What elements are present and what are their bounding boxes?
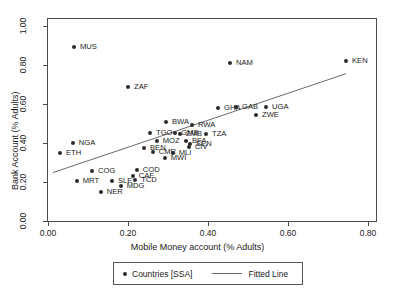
data-point bbox=[58, 151, 62, 155]
y-tick-mark bbox=[43, 221, 47, 222]
data-point-label: CIV bbox=[195, 143, 208, 151]
legend-marker-dot-icon bbox=[123, 272, 127, 276]
x-tick-mark bbox=[128, 222, 129, 226]
data-point bbox=[234, 105, 238, 109]
data-point bbox=[254, 113, 258, 117]
x-axis-title: Mobile Money account (% Adults) bbox=[0, 242, 395, 252]
x-tick-mark bbox=[48, 222, 49, 226]
x-tick-mark bbox=[368, 222, 369, 226]
legend-label-fitted-line: Fitted Line bbox=[248, 269, 288, 279]
data-point bbox=[75, 179, 79, 183]
legend-line-icon bbox=[212, 273, 242, 274]
x-tick-mark bbox=[288, 222, 289, 226]
y-tick-label: 1.00 bbox=[18, 11, 28, 41]
data-point-label: KEN bbox=[352, 57, 368, 65]
data-point-label: MUS bbox=[80, 43, 97, 51]
data-point bbox=[142, 146, 146, 150]
x-tick-label: 0.60 bbox=[268, 228, 308, 238]
data-point bbox=[264, 105, 268, 109]
x-tick-label: 0.80 bbox=[348, 228, 388, 238]
data-point bbox=[216, 106, 220, 110]
x-tick-label: 0.20 bbox=[108, 228, 148, 238]
y-tick-label: 0.80 bbox=[18, 50, 28, 80]
data-point bbox=[178, 132, 182, 136]
data-point bbox=[71, 141, 75, 145]
data-point-label: BWA bbox=[172, 118, 189, 126]
data-point-label: ETH bbox=[66, 149, 81, 157]
data-point-label: NGA bbox=[79, 139, 95, 147]
y-tick-mark bbox=[43, 26, 47, 27]
x-tick-mark bbox=[208, 222, 209, 226]
y-tick-mark bbox=[43, 65, 47, 66]
data-point-label: GHA bbox=[224, 104, 240, 112]
data-point-label: TZA bbox=[212, 130, 226, 138]
data-point-label: ZAF bbox=[134, 83, 148, 91]
data-point-label: RWA bbox=[198, 121, 215, 129]
x-tick-label: 0.40 bbox=[188, 228, 228, 238]
y-tick-mark bbox=[43, 104, 47, 105]
data-point bbox=[163, 156, 167, 160]
data-point-label: NER bbox=[107, 188, 123, 196]
data-point-label: COG bbox=[98, 167, 115, 175]
y-tick-mark bbox=[43, 143, 47, 144]
data-point-label: GAB bbox=[242, 103, 258, 111]
legend-entry-countries: Countries [SSA] bbox=[114, 269, 192, 279]
data-point bbox=[110, 179, 114, 183]
data-point-label: MRT bbox=[83, 177, 99, 185]
chart-legend: Countries [SSA] Fitted Line bbox=[113, 262, 303, 285]
legend-label-countries: Countries [SSA] bbox=[132, 269, 192, 279]
x-tick-label: 0.00 bbox=[28, 228, 68, 238]
y-axis-title: Bank Account (% Adults) bbox=[10, 91, 20, 190]
y-tick-mark bbox=[43, 182, 47, 183]
y-tick-label: 0.00 bbox=[18, 206, 28, 236]
scatter-plot-figure: 0.000.200.400.600.801.00 0.000.200.400.6… bbox=[0, 0, 395, 299]
data-point-label: ZWE bbox=[262, 111, 279, 119]
data-point bbox=[99, 190, 103, 194]
data-point bbox=[228, 61, 232, 65]
data-point-label: MDG bbox=[127, 182, 145, 190]
data-point-label: NAM bbox=[236, 59, 253, 67]
data-point bbox=[344, 59, 348, 63]
legend-entry-fitted-line: Fitted Line bbox=[192, 269, 288, 279]
data-point-label: MWI bbox=[171, 154, 187, 162]
